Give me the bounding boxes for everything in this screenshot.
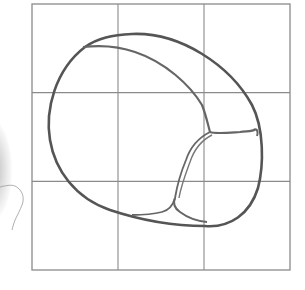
sketch-mark bbox=[0, 185, 23, 230]
lower-contour-line bbox=[174, 198, 207, 222]
upper-contour-line bbox=[83, 46, 210, 132]
drawing-canvas bbox=[0, 0, 305, 290]
right-contour-junction bbox=[256, 129, 258, 136]
construction-grid bbox=[32, 4, 290, 270]
right-contour-line bbox=[210, 129, 256, 133]
egg-outline bbox=[49, 34, 262, 226]
inner-contour-line-outer bbox=[132, 132, 210, 215]
grid-frame bbox=[32, 4, 290, 270]
